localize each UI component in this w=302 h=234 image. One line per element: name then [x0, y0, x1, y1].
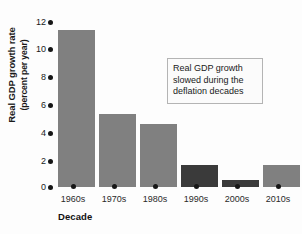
annotation-line1: Real GDP growth: [173, 63, 257, 75]
bar-2000s: [222, 180, 259, 187]
y-tick-dot: [48, 20, 53, 25]
x-axis-label: Decade: [58, 211, 92, 222]
x-tick-label-2010s: 2010s: [256, 194, 300, 204]
y-tick-label: 6: [16, 100, 46, 111]
gdp-growth-bar-chart: Real GDP growth rate (percent per year) …: [0, 0, 302, 234]
bar-1960s: [58, 30, 95, 187]
x-tick-label-1960s: 1960s: [51, 194, 95, 204]
y-tick-dot: [48, 159, 53, 164]
y-tick-dot: [48, 47, 53, 52]
y-tick-label: 12: [16, 17, 46, 28]
x-tick-dot: [235, 184, 240, 189]
x-tick-label-1970s: 1970s: [92, 194, 136, 204]
annotation-callout: Real GDP growth slowed during the deflat…: [167, 58, 263, 104]
bar-1970s: [99, 114, 136, 188]
y-tick-dot: [48, 75, 53, 80]
y-tick-label: 2: [16, 156, 46, 167]
x-tick-label-2000s: 2000s: [215, 194, 259, 204]
x-tick-dot: [112, 184, 117, 189]
x-tick-dot: [71, 184, 76, 189]
annotation-line3: deflation decades: [173, 86, 257, 98]
x-tick-label-1980s: 1980s: [133, 194, 177, 204]
annotation-line2: slowed during the: [173, 75, 257, 87]
bar-1990s: [181, 165, 218, 187]
y-tick-dot: [48, 185, 53, 190]
y-tick-label: 8: [16, 72, 46, 83]
y-tick-dot: [48, 131, 53, 136]
x-tick-dot: [153, 184, 158, 189]
y-tick-label: 10: [16, 44, 46, 55]
y-axis-ticks: 12 10 8 6 4 2 0: [14, 0, 46, 234]
bar-2010s: [263, 165, 300, 187]
bar-1980s: [140, 124, 177, 187]
y-tick-label: 4: [16, 128, 46, 139]
y-tick-label: 0: [16, 182, 46, 193]
y-tick-dot: [48, 103, 53, 108]
x-tick-label-1990s: 1990s: [174, 194, 218, 204]
x-tick-dot: [276, 184, 281, 189]
x-tick-dot: [194, 184, 199, 189]
